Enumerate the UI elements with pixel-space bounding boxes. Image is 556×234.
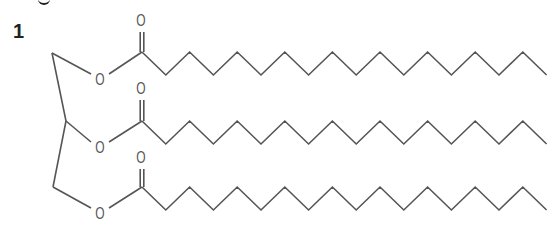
- glycerol-to-ester-oxygen-bond: [52, 53, 91, 74]
- triglyceride-structure: OOOOOO: [0, 0, 556, 234]
- atom-labels: OOOOOO: [95, 11, 145, 222]
- glycerol-to-ester-oxygen-bond: [66, 121, 91, 142]
- alkyl-chain-3: [142, 187, 547, 210]
- ester-oxygen-label: O: [95, 70, 104, 88]
- glycerol-to-ester-oxygen-bond: [53, 187, 91, 208]
- carbonyl-oxygen-label: O: [136, 148, 145, 166]
- alkyl-chain-2: [142, 121, 547, 144]
- carbonyl-oxygen-label: O: [136, 79, 145, 97]
- bond-lines: [52, 32, 547, 210]
- glycerol-backbone: [52, 53, 66, 187]
- ester-oxygen-label: O: [95, 138, 104, 156]
- ester-oxygen-to-carbonyl-bond: [109, 121, 142, 142]
- alkyl-chain-1: [142, 52, 547, 75]
- ester-oxygen-to-carbonyl-bond: [109, 187, 142, 208]
- ester-oxygen-label: O: [95, 204, 104, 222]
- ester-oxygen-to-carbonyl-bond: [109, 52, 142, 74]
- carbonyl-oxygen-label: O: [136, 11, 145, 29]
